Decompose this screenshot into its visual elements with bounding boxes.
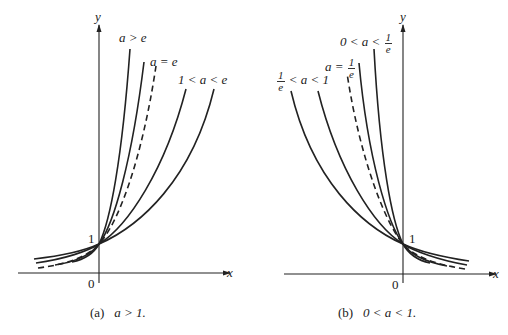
curve-label-a-eq-e: a = e (150, 55, 178, 68)
curve-label-a-between: 1 < a < e (178, 73, 227, 86)
curve-b-equals-inv-e (347, 73, 465, 269)
curve-label-b-between-text: < a < 1 (289, 72, 329, 87)
curve-label-b-between: 1e < a < 1 (276, 70, 329, 93)
caption-b-condition: 0 < a < 1. (363, 305, 416, 320)
caption-a: (a) a > 1. (90, 305, 146, 321)
y-intercept-label-a: 1 (88, 232, 95, 245)
panel-b-axes (284, 25, 496, 283)
curve-a-steepest (72, 49, 130, 262)
x-axis-label-a: x (227, 266, 233, 279)
y-axis-label-b: y (400, 10, 406, 23)
caption-a-condition: a > 1. (114, 305, 146, 320)
origin-label-b: 0 (392, 278, 399, 291)
y-intercept-label-b: 1 (409, 232, 416, 245)
curve-label-a-gt-e: a > e (119, 31, 147, 44)
curve-b-shallow (291, 91, 469, 261)
x-axis-label-b: x (493, 267, 499, 280)
caption-a-prefix: (a) (90, 305, 104, 320)
curve-label-b-lt-inv-e: 0 < a < 1e (340, 32, 393, 55)
curve-b-steepest (374, 49, 430, 263)
caption-b-prefix: (b) (338, 305, 353, 320)
curve-a-mid (36, 89, 186, 263)
curve-label-b-lt-inv-e-text: 0 < a < (340, 34, 380, 49)
origin-label-a: 0 (88, 277, 95, 290)
graphs-canvas (0, 0, 508, 335)
fraction-1-over-e: 1e (348, 57, 356, 80)
caption-b: (b) 0 < a < 1. (338, 305, 416, 321)
panel-a-axes (18, 25, 230, 283)
y-axis-label-a: y (95, 10, 101, 23)
curve-a-equals-e (38, 66, 156, 268)
fraction-1-over-e: 1e (385, 32, 393, 55)
curve-label-b-eq-inv-e: a = 1e (325, 57, 356, 80)
fraction-1-over-e: 1e (277, 70, 285, 93)
